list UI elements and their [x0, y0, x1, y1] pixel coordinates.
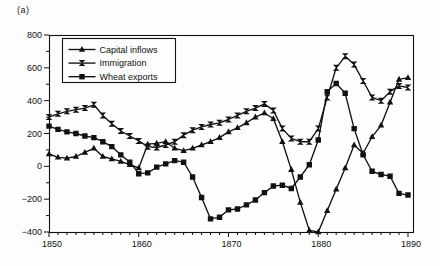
- y-axis-tick-label: 200: [27, 129, 42, 139]
- y-axis-tick-label: 800: [27, 30, 42, 40]
- series-wheat-exports-markers: [46, 81, 410, 222]
- x-axis-tick-label: 1860: [132, 239, 152, 249]
- series-wheat-exports-line: [49, 83, 408, 219]
- x-axis-tick-label: 1890: [401, 239, 421, 249]
- y-axis-tick-label: 400: [27, 96, 42, 106]
- x-axis-tick-label: 1870: [221, 239, 241, 249]
- chart-canvas: −400−20002004006008001850186018701880189…: [0, 0, 440, 266]
- legend-immigration-label: Immigration: [100, 58, 147, 68]
- legend-wheat-exports-marker-icon: [79, 74, 84, 79]
- y-axis-tick-label: −200: [22, 194, 42, 204]
- y-axis-tick-label: −400: [22, 227, 42, 237]
- y-axis-tick-label: 600: [27, 63, 42, 73]
- chart-figure: (a) −400−2000200400600800185018601870188…: [0, 0, 440, 266]
- legend-wheat-exports-label: Wheat exports: [100, 72, 159, 82]
- legend-capital-inflows-label: Capital inflows: [100, 45, 159, 55]
- x-axis-tick-label: 1850: [42, 239, 62, 249]
- x-axis-tick-label: 1880: [311, 239, 331, 249]
- y-axis-tick-label: 0: [37, 161, 42, 171]
